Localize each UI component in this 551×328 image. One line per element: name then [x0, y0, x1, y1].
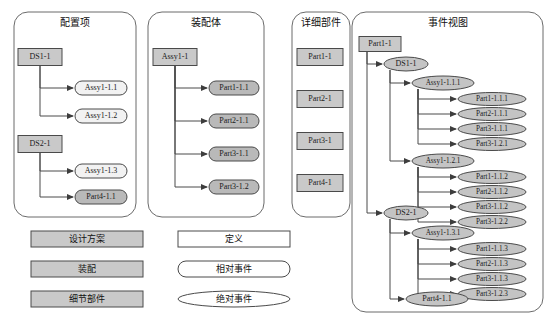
- panel1-edge-3: [40, 153, 73, 198]
- node-label: Part3-1.1: [219, 149, 249, 158]
- node-p4-4[interactable]: Part2-1.1.1: [458, 108, 526, 121]
- panel4-edge-15: [418, 239, 456, 264]
- panel-title: 事件视图: [428, 16, 468, 28]
- legend-item-5: 绝对事件: [178, 291, 290, 307]
- node-p4-10[interactable]: Part3-1.1.2: [458, 201, 526, 214]
- node-label: Assy1-1.2: [85, 111, 118, 120]
- node-label: DS2-1: [396, 208, 417, 217]
- node-p4-12[interactable]: DS2-1: [384, 206, 428, 220]
- node-p4-3[interactable]: Part1-1.1.1: [458, 93, 526, 106]
- node-p4-6[interactable]: Part3-1.2.1: [458, 138, 526, 151]
- legend-item-3: 定义: [178, 231, 290, 247]
- node-label: DS2-1: [30, 139, 51, 148]
- node-label: Part3-1.2.1: [476, 140, 508, 148]
- node-label: Part3-1.2: [219, 182, 249, 191]
- node-label: Assy1-1.3: [85, 166, 118, 175]
- node-label: Part4-1.1: [86, 192, 116, 201]
- node-p2-2[interactable]: Part2-1.1: [209, 114, 259, 128]
- panel4-edge-17: [418, 239, 456, 294]
- node-p3-0[interactable]: Part1-1: [297, 49, 343, 66]
- node-p2-0[interactable]: Assy1-1: [153, 49, 197, 66]
- node-label: DS1-1: [396, 59, 417, 68]
- legend-label: 相对事件: [216, 263, 252, 274]
- panel4-edge-5: [418, 89, 456, 114]
- node-p4-16[interactable]: Part3-1.1.3: [458, 273, 526, 286]
- node-p1-5[interactable]: Part4-1.1: [75, 190, 127, 204]
- legend-item-2: 细节部件: [31, 291, 143, 307]
- node-p3-2[interactable]: Part3-1: [297, 133, 343, 150]
- panel2-edge-3: [175, 66, 207, 188]
- node-p2-4[interactable]: Part3-1.2: [209, 180, 259, 194]
- panel4-edge-16: [418, 239, 456, 279]
- diagram-canvas: 配置项装配体详细部件事件视图 DS1-1Assy1-1.1Assy1-1.2DS…: [0, 0, 551, 328]
- node-p4-14[interactable]: Part1-1.1.3: [458, 243, 526, 256]
- node-label: Part1-1.1: [219, 83, 249, 92]
- panel4-edge-7: [418, 89, 456, 144]
- legend-item-0: 设计方案: [31, 231, 143, 247]
- node-p1-4[interactable]: Assy1-1.3: [75, 164, 127, 178]
- node-p1-2[interactable]: Assy1-1.2: [75, 109, 127, 123]
- node-label: Part3-1.2.3: [476, 290, 508, 298]
- panel4-edge-8: [418, 167, 456, 177]
- node-label: Part3-1.1.3: [476, 275, 508, 283]
- legend-label: 装配: [78, 263, 96, 274]
- node-label: Part3-1.1.1: [476, 125, 508, 133]
- panel2-edge-2: [175, 66, 207, 155]
- node-p2-1[interactable]: Part1-1.1: [209, 81, 259, 95]
- legend-item-4: 相对事件: [178, 261, 290, 277]
- node-p4-1[interactable]: DS1-1: [384, 57, 428, 71]
- node-p4-13[interactable]: Assy1-1.3.1: [412, 226, 474, 240]
- node-label: Part4-1: [308, 178, 332, 187]
- node-p4-8[interactable]: Part1-1.1.2: [458, 171, 526, 184]
- panel4-edge-1: [367, 51, 382, 214]
- panel2-edge-0: [175, 66, 207, 89]
- node-p3-1[interactable]: Part2-1: [297, 91, 343, 108]
- node-label: Part2-1.1.2: [476, 188, 508, 196]
- node-label: Part1-1.1.1: [476, 95, 508, 103]
- legend-label: 细节部件: [69, 293, 105, 304]
- node-label: Part3-1.2.2: [476, 218, 508, 226]
- node-label: Assy1-1.2.1: [426, 157, 461, 165]
- node-p4-7[interactable]: Assy1-1.2.1: [412, 154, 474, 168]
- panel4-edge-6: [418, 89, 456, 129]
- node-p1-0[interactable]: DS1-1: [18, 49, 62, 66]
- node-label: Part1-1.1.3: [476, 245, 508, 253]
- node-p1-3[interactable]: DS2-1: [18, 136, 62, 153]
- node-p4-9[interactable]: Part2-1.1.2: [458, 186, 526, 199]
- node-label: Assy1-1.1: [85, 83, 118, 92]
- panel4-edge-3: [390, 70, 410, 161]
- panel1-edge-2: [40, 153, 73, 172]
- panel4-edge-13: [390, 219, 404, 299]
- panel4-edge-4: [418, 89, 456, 99]
- panel-title: 装配体: [191, 16, 221, 28]
- legend-item-1: 装配: [31, 261, 143, 277]
- panel-title: 详细部件: [301, 16, 341, 28]
- panel4-edge-0: [367, 51, 382, 65]
- node-p4-15[interactable]: Part2-1.1.3: [458, 258, 526, 271]
- panel4-edge-14: [418, 239, 456, 249]
- node-label: Part2-1: [308, 94, 332, 103]
- node-p1-1[interactable]: Assy1-1.1: [75, 81, 127, 95]
- node-label: Part2-1.1.3: [476, 260, 508, 268]
- panel2-edge-1: [175, 66, 207, 122]
- legend-label: 绝对事件: [216, 293, 252, 304]
- diagram-svg: 配置项装配体详细部件事件视图 DS1-1Assy1-1.1Assy1-1.2DS…: [0, 0, 551, 328]
- node-p4-0[interactable]: Part1-1: [359, 37, 401, 52]
- node-p4-11[interactable]: Part3-1.2.2: [458, 216, 526, 229]
- node-label: Assy1-1.3.1: [426, 229, 461, 237]
- node-label: Part1-1.1.2: [476, 173, 508, 181]
- node-p4-18[interactable]: Part4-1.1: [406, 292, 468, 306]
- node-p4-2[interactable]: Assy1-1.1.1: [412, 76, 474, 90]
- legend-label: 设计方案: [69, 233, 105, 244]
- node-label: Part3-1: [308, 136, 332, 145]
- node-label: DS1-1: [30, 52, 51, 61]
- panel4-edge-9: [418, 167, 456, 192]
- panel4-edge-10: [418, 167, 456, 207]
- node-label: Part3-1.1.2: [476, 203, 508, 211]
- node-p2-3[interactable]: Part3-1.1: [209, 147, 259, 161]
- node-p3-3[interactable]: Part4-1: [297, 175, 343, 192]
- node-label: Part1-1: [368, 39, 392, 48]
- node-p4-5[interactable]: Part3-1.1.1: [458, 123, 526, 136]
- panel1-edge-1: [40, 66, 73, 117]
- panel4-edge-12: [390, 219, 410, 233]
